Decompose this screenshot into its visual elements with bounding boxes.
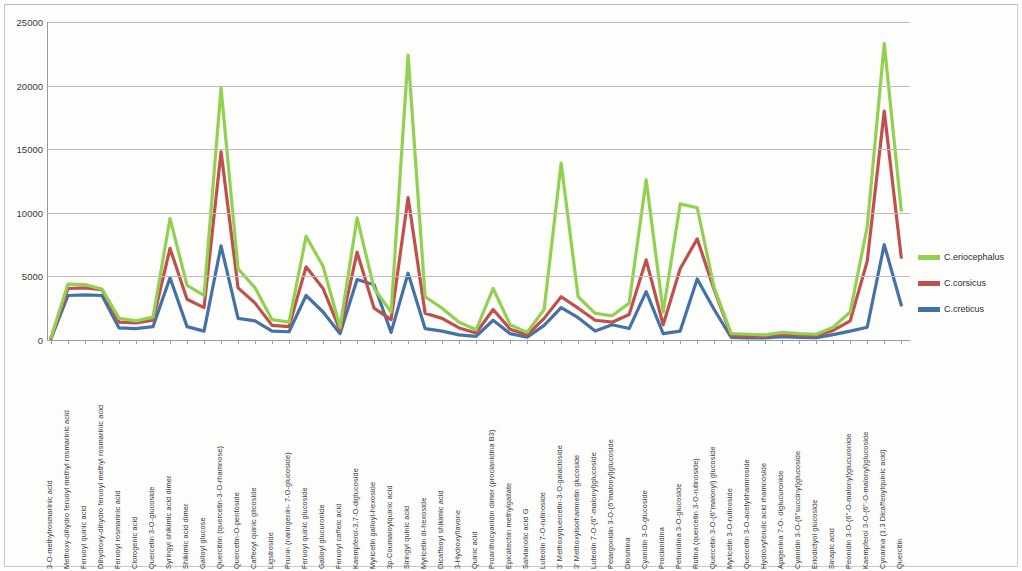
y-tick-label: 20000 xyxy=(17,80,43,91)
x-category-label: 3' Methoxyquercetin-3-O-galactoside xyxy=(555,445,564,569)
legend-color-swatch xyxy=(918,281,940,286)
gridline xyxy=(47,213,910,214)
x-category-label: Cynarina (1,3 Dicaffeoylquinic acid) xyxy=(878,449,887,569)
x-category-label: Dicaffeoyl shikimic acid xyxy=(436,490,445,569)
legend-label: C.corsicus xyxy=(944,278,986,288)
x-category-label: Feruoyl quinic glucoside xyxy=(300,487,309,569)
chart-legend: C.eriocephalusC.corsicusC.creticus xyxy=(918,252,1022,330)
line-series-layer xyxy=(47,22,910,340)
x-category-label: Diosmina xyxy=(623,537,632,569)
legend-item: C.corsicus xyxy=(918,278,1022,288)
gridline xyxy=(47,86,910,87)
x-category-label: Quercetin 3-O-(6"malonyl) glucoside xyxy=(708,446,717,569)
x-category-label: Myricetin 3-O-rutinoside xyxy=(725,488,734,569)
x-category-label: Ligstroside xyxy=(266,532,275,569)
x-category-label: Luteolin 7-O-(6"-malonyl)glucoside xyxy=(589,452,598,569)
x-category-label: Pelargonidin 3-O-(6"malonyl)glucoside xyxy=(606,439,615,569)
chart-plot-area xyxy=(47,22,910,340)
y-tick-label: 25000 xyxy=(17,17,43,28)
legend-color-swatch xyxy=(918,255,940,260)
x-category-label: Peonidin 3-O-(6"-O-malonyl)glucuronide xyxy=(844,434,853,569)
legend-item: C.eriocephalus xyxy=(918,252,1022,262)
x-category-label: Luteolin 7-O-rutinoside xyxy=(538,492,547,569)
x-category-label: Petunidina 3-O-glucoside xyxy=(674,484,683,569)
x-category-label: Caffeoyl quinic glicoside xyxy=(249,487,258,569)
x-category-label: Kaempferol 3-O-(6"-O-malonyl)glucoside xyxy=(861,432,870,569)
x-category-label: Rutina (quercetin 3-O-rutinoside) xyxy=(691,458,700,569)
legend-color-swatch xyxy=(918,307,940,312)
x-category-label: Feruoyl rosmarinic acid xyxy=(113,490,122,569)
gridline xyxy=(47,149,910,150)
x-category-label: Prunin (naringenin- 7-O-glucoside) xyxy=(283,452,292,569)
y-tick-label: 0 xyxy=(38,335,43,346)
x-category-label: Quercetin-O-pentoside xyxy=(232,492,241,569)
x-axis-category-labels: 3-O-methylrosmarinic acidMethoxy-dihydro… xyxy=(47,344,917,569)
legend-item: C.creticus xyxy=(918,304,1022,314)
x-category-label: Cyanidin 3-O-glucoside xyxy=(640,490,649,569)
x-category-label: Myricetin di-hexoside xyxy=(419,497,428,569)
x-category-label: Galloyl glucuronide xyxy=(317,504,326,569)
x-category-label: Quinic acid xyxy=(470,531,479,569)
legend-label: C.creticus xyxy=(944,304,984,314)
x-category-label: Dihydroxy-dihydro feruoyl methyl rosmari… xyxy=(96,405,105,569)
x-category-label: Quercitrin (quercetin-3-O-rhamnose) xyxy=(215,446,224,569)
y-tick-label: 15000 xyxy=(17,144,43,155)
x-category-label: Proanthocyanidin dimer (procianidina B3) xyxy=(487,429,496,569)
x-category-label: 3p-Coumaroylquinic acid xyxy=(385,485,394,569)
x-category-label: 3-O-methylrosmarinic acid xyxy=(45,480,54,569)
x-category-label: Kaempferol-3,7-O-diglucoside xyxy=(351,468,360,569)
x-category-label: Procianidina xyxy=(657,527,666,569)
y-axis-line xyxy=(47,22,48,340)
y-tick-label: 5000 xyxy=(22,271,43,282)
y-tick-label: 10000 xyxy=(17,207,43,218)
x-category-label: Epicatechin methylgallate xyxy=(504,483,513,569)
x-category-label: Myricetin galloyl-hexoside xyxy=(368,482,377,569)
y-axis-labels: 0500010000150002000025000 xyxy=(0,22,43,340)
x-category-label: Syringyl shikimic acid dimer xyxy=(164,475,173,569)
x-category-label: Quercetin 3-O-glucoside xyxy=(147,487,156,569)
x-category-label: Siringyl quinic acid xyxy=(402,506,411,569)
x-category-label: Cyanidin 3-O-(6"succinyl)glucoside xyxy=(793,451,802,569)
x-category-label: Hydroxyferulic acid rhamnoside xyxy=(759,463,768,569)
x-category-label: Methoxy-dihydro feruoyl methyl rosmarini… xyxy=(62,410,71,569)
gridline xyxy=(47,22,910,23)
x-category-label: Clorogenic acid xyxy=(130,517,139,569)
x-category-label: Feruoyl quinic acid xyxy=(79,505,88,569)
x-category-label: Galloyl glucose xyxy=(198,517,207,569)
x-category-label: Sinapic acid xyxy=(827,528,836,569)
x-category-label: Feruoyl caffeic acid xyxy=(334,503,343,569)
x-category-label: 3' Methoxyisorhamnetin glucoside xyxy=(572,455,581,569)
x-category-label: Shikimic acid dimer xyxy=(181,503,190,569)
x-category-label: Quercetin 3-O-acetylrhamnoside xyxy=(742,459,751,569)
legend-label: C.eriocephalus xyxy=(944,252,1004,262)
x-category-label: 3-Hydroxyflavone xyxy=(453,510,462,569)
x-category-label: Quercitin xyxy=(895,539,904,569)
scanned-page: 0500010000150002000025000 3-O-methylrosm… xyxy=(0,0,1022,571)
x-category-label: Apigenina 7-O- diglucuronide xyxy=(776,470,785,569)
x-category-label: Eriodictyol glucoside xyxy=(810,500,819,569)
page-border-top xyxy=(4,4,1018,5)
x-axis-line xyxy=(47,340,910,341)
series-line-ceriocephalus xyxy=(51,44,901,338)
series-line-ccreticus xyxy=(51,245,901,339)
x-category-label: Salvianolic acid G xyxy=(521,508,530,569)
gridline xyxy=(47,276,910,277)
